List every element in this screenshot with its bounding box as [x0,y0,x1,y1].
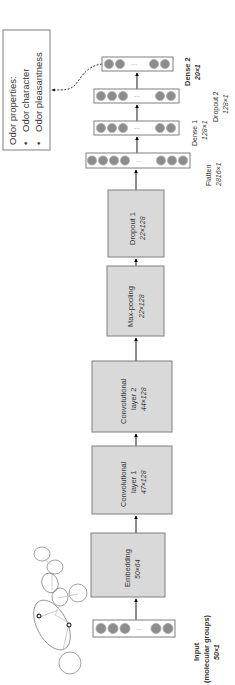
input-dim: 50×1 [213,644,220,660]
cnn-architecture-diagram: Odor properties: • Odor character • Odor… [0,0,235,685]
output-connector-dashed-arrow [52,64,102,90]
max-pooling-label: Max-pooling [126,286,135,327]
input-label: Input [192,642,201,661]
dropout-2-dim: 128×1 [222,94,229,114]
embedding-label: Embedding [123,549,132,587]
flatten-label: Flatten [205,164,212,186]
input-vector: ··· [93,620,175,637]
molecule-illustration-icon [26,547,87,674]
conv-layer-1: Convolutional layer 1 47×128 [92,446,172,514]
dropout-2-label: Dropout 2 [212,91,220,122]
dense-1-label: Dense 1 [191,120,198,146]
svg-text:···: ··· [136,626,142,632]
odor-pleasantness-item: Odor pleasantness [33,52,44,132]
dense-2-label: Dense 2 [183,57,192,86]
odor-properties-title: Odor properties: [7,76,18,145]
embedding-dim: 50×64 [134,559,141,579]
odor-character-item: Odor character [20,69,31,132]
svg-text:···: ··· [136,158,142,164]
conv-2-label: Convolutional [119,378,128,424]
conv-1-label: Convolutional [119,461,128,507]
conv-layer-2: Convolutional layer 2 44×128 [92,361,172,432]
embedding-layer: Embedding 50×64 [91,533,165,597]
conv-1-dim: 47×128 [140,470,147,494]
dense-1-vector: ··· [94,121,179,135]
input-sublabel: (molecular groups) [202,615,211,683]
conv-2-dim: 44×128 [140,387,147,411]
max-pooling-dim: 22×128 [138,294,145,319]
dense-2-vector: ··· [102,57,173,71]
conv-2-label-line2: layer 2 [129,387,138,410]
bullet-icon: • [20,142,31,145]
dropout-1-dim: 22×128 [139,216,146,241]
dropout-2-vector: ··· [94,89,179,103]
conv-1-label-line2: layer 1 [129,470,138,493]
dropout-1-label: Dropout 1 [128,212,137,245]
odor-properties-box: Odor properties: • Odor character • Odor… [3,30,50,150]
flatten-dim: 2816×1 [215,162,222,187]
max-pooling-layer: Max-pooling 22×128 [107,266,164,336]
svg-text:···: ··· [134,93,140,99]
bullet-icon: • [33,142,44,145]
dense-1-dim: 128×1 [201,120,208,140]
svg-text:···: ··· [134,125,140,131]
svg-text:···: ··· [131,61,137,67]
flatten-vector: ··· [86,153,190,168]
dropout-1-layer: Dropout 1 22×128 [108,190,164,257]
dense-2-dim: 20×1 [194,64,201,81]
